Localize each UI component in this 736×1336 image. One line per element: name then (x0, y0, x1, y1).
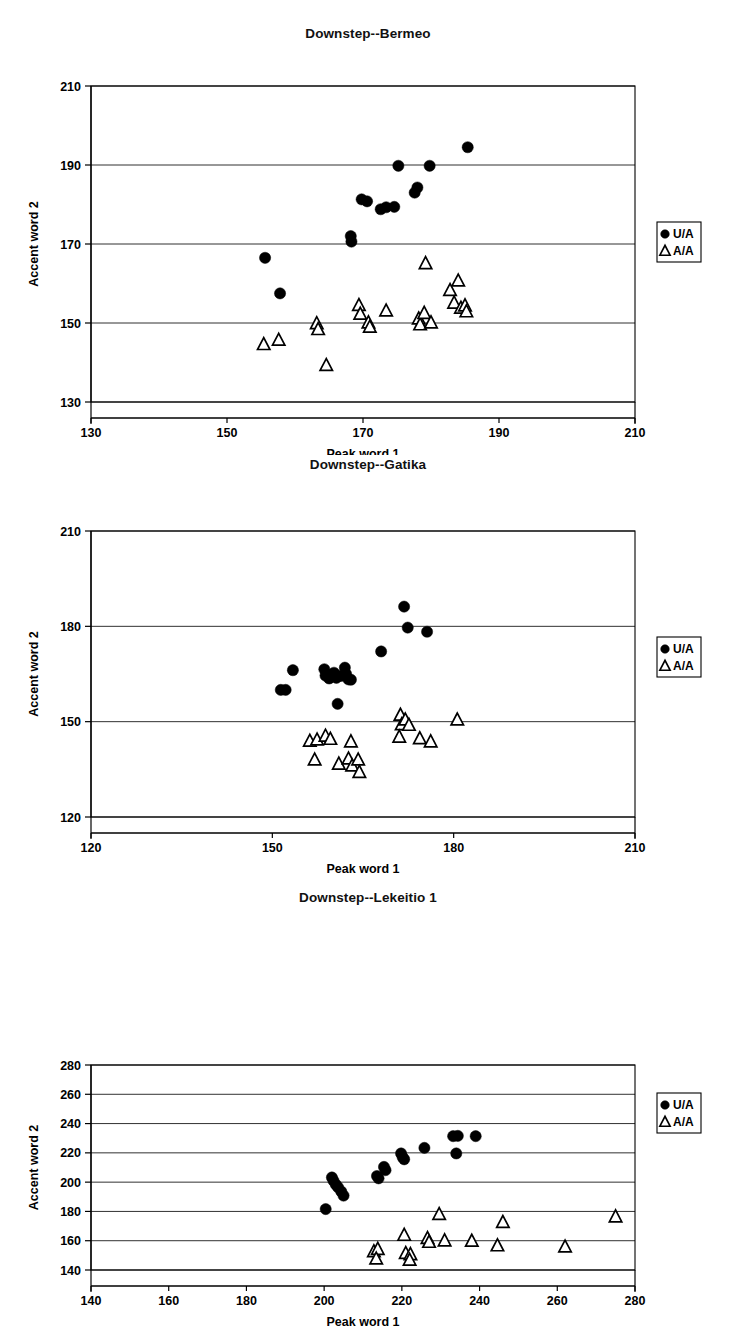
legend-label-aa: A/A (673, 1115, 694, 1129)
data-point-aa (419, 257, 431, 269)
legend-label-aa: A/A (673, 659, 694, 673)
data-point-aa (398, 1228, 410, 1240)
x-tick-label-140: 140 (81, 1294, 102, 1308)
legend-marker-ua-icon (661, 645, 670, 654)
legend-label-ua: U/A (673, 1098, 694, 1112)
y-tick-label-170: 170 (60, 238, 81, 252)
series-aa (258, 257, 473, 371)
data-point-aa (258, 338, 270, 350)
y-tick-label-180: 180 (60, 1205, 81, 1219)
x-tick-label-240: 240 (469, 1294, 490, 1308)
x-tick-label-220: 220 (391, 1294, 412, 1308)
data-point-ua (361, 196, 372, 207)
data-point-ua (452, 1130, 463, 1141)
data-point-ua (470, 1131, 481, 1142)
data-point-ua (421, 626, 432, 637)
y-tick-label-210: 210 (60, 525, 81, 539)
y-tick-label-210: 210 (60, 80, 81, 94)
y-tick-label-190: 190 (60, 159, 81, 173)
y-tick-label-130: 130 (60, 396, 81, 410)
y-tick-label-150: 150 (60, 715, 81, 729)
y-tick-label-240: 240 (60, 1117, 81, 1131)
series-ua (320, 1130, 481, 1214)
data-point-ua (338, 1190, 349, 1201)
data-point-aa (497, 1215, 509, 1227)
y-axis-title: Accent word 2 (27, 631, 41, 716)
x-tick-label-150: 150 (262, 841, 283, 855)
data-point-aa (320, 359, 332, 371)
data-point-aa (345, 735, 357, 747)
x-tick-label-280: 280 (625, 1294, 646, 1308)
plot-area-bermeo: 130150170190210130150170190210Peak word … (0, 0, 736, 455)
series-ua (275, 601, 432, 709)
x-tick-label-260: 260 (547, 1294, 568, 1308)
y-tick-label-180: 180 (60, 620, 81, 634)
y-axis-title: Accent word 2 (27, 1125, 41, 1210)
data-point-ua (345, 674, 356, 685)
data-point-ua (259, 252, 270, 263)
chart-panel-gatika: Downstep--Gatika 12015018021012015018021… (0, 455, 736, 880)
legend[interactable]: U/AA/A (657, 222, 701, 262)
data-point-aa (414, 732, 426, 744)
downstep-scatter-figure: Downstep--Bermeo 13015017019021013015017… (0, 0, 736, 1336)
data-point-ua (412, 182, 423, 193)
x-tick-label-170: 170 (353, 426, 374, 440)
data-point-ua (393, 160, 404, 171)
x-tick-label-180: 180 (443, 841, 464, 855)
legend-label-ua: U/A (673, 642, 694, 656)
x-tick-label-200: 200 (314, 1294, 335, 1308)
data-point-ua (332, 698, 343, 709)
y-tick-label-260: 260 (60, 1088, 81, 1102)
data-point-ua (287, 665, 298, 676)
legend[interactable]: U/AA/A (657, 1093, 701, 1133)
data-point-aa (466, 1234, 478, 1246)
data-point-ua (346, 236, 357, 247)
data-point-ua (462, 142, 473, 153)
legend-marker-ua-icon (661, 230, 670, 239)
y-tick-label-140: 140 (60, 1264, 81, 1278)
data-point-aa (380, 304, 392, 316)
x-tick-label-130: 130 (81, 426, 102, 440)
x-tick-label-160: 160 (158, 1294, 179, 1308)
x-axis-title: Peak word 1 (327, 862, 400, 876)
data-point-aa (438, 1234, 450, 1246)
data-point-aa (452, 274, 464, 286)
series-aa (304, 708, 464, 777)
y-tick-label-200: 200 (60, 1176, 81, 1190)
data-point-aa (272, 333, 284, 345)
y-tick-label-280: 280 (60, 1059, 81, 1073)
x-tick-label-210: 210 (625, 426, 646, 440)
y-tick-label-220: 220 (60, 1146, 81, 1160)
data-point-ua (399, 1154, 410, 1165)
data-point-ua (320, 1203, 331, 1214)
data-point-aa (308, 753, 320, 765)
data-point-ua (380, 1165, 391, 1176)
plot-frame (91, 1065, 635, 1270)
legend-label-aa: A/A (673, 244, 694, 258)
data-point-ua (402, 622, 413, 633)
y-tick-label-120: 120 (60, 811, 81, 825)
x-tick-label-150: 150 (217, 426, 238, 440)
data-point-aa (559, 1240, 571, 1252)
y-axis-title: Accent word 2 (27, 201, 41, 286)
data-point-aa (433, 1208, 445, 1220)
chart-2: 1401601802002202402602801401601802002202… (27, 1059, 701, 1330)
data-point-ua (451, 1148, 462, 1159)
x-tick-label-120: 120 (81, 841, 102, 855)
plot-area-gatika: 120150180210120150180210Peak word 1Accen… (0, 455, 736, 880)
legend-marker-ua-icon (661, 1101, 670, 1110)
legend-label-ua: U/A (673, 227, 694, 241)
x-axis-title: Peak word 1 (327, 1315, 400, 1329)
chart-panel-bermeo: Downstep--Bermeo 13015017019021013015017… (0, 0, 736, 455)
data-point-aa (451, 713, 463, 725)
data-point-aa (352, 753, 364, 765)
data-point-aa (393, 730, 405, 742)
y-tick-label-150: 150 (60, 317, 81, 331)
chart-1: 120150180210120150180210Peak word 1Accen… (27, 525, 701, 877)
series-aa (368, 1208, 622, 1266)
data-point-ua (280, 684, 291, 695)
data-point-aa (424, 735, 436, 747)
x-axis-title: Peak word 1 (327, 447, 400, 455)
chart-0: 130150170190210130150170190210Peak word … (27, 80, 701, 456)
legend[interactable]: U/AA/A (657, 637, 701, 677)
